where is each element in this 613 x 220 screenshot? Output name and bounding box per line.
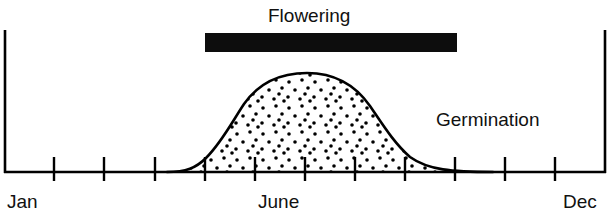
germination-label: Germination <box>436 110 540 129</box>
axis-ticks <box>54 157 555 181</box>
axis-label-jan: Jan <box>7 192 38 211</box>
flowering-label: Flowering <box>268 6 350 25</box>
axis-label-dec: Dec <box>563 192 597 211</box>
flowering-bar <box>205 33 457 52</box>
axis-label-june: June <box>258 192 299 211</box>
figure-canvas: Flowering Germination Jan June Dec <box>0 0 613 220</box>
